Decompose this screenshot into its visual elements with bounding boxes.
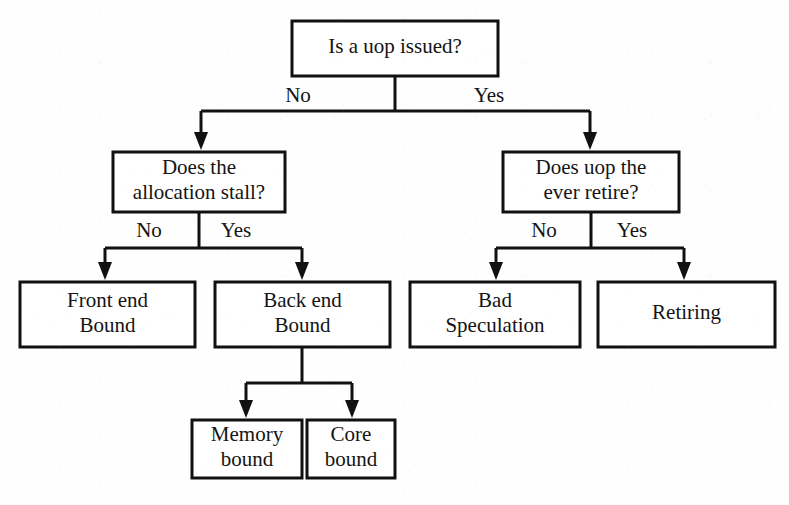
node-label-does-allocation-stall-line-0: Does the: [162, 155, 236, 179]
node-back-end-bound[interactable]: Back endBound: [215, 282, 390, 347]
node-label-back-end-bound-line-1: Bound: [274, 313, 331, 337]
connector-backend-split: [239, 347, 359, 418]
edge-label-root-yes: Yes: [474, 83, 505, 107]
node-retiring[interactable]: Retiring: [598, 282, 775, 347]
node-label-back-end-bound-line-0: Back end: [263, 288, 342, 312]
node-label-retiring-line-0: Retiring: [652, 300, 721, 324]
decision-tree-diagram: Is a uop issued?Does theallocation stall…: [0, 0, 789, 505]
connector-retire-split: [489, 212, 691, 280]
edge-label-alloc-no: No: [136, 218, 162, 242]
connector-retire-split-arrowhead-1: [677, 262, 691, 280]
connector-alloc-split-arrowhead-0: [98, 262, 112, 280]
connector-backend-split-arrowhead-0: [239, 400, 253, 418]
flowchart-canvas: Is a uop issued?Does theallocation stall…: [0, 0, 789, 505]
node-label-front-end-bound-line-0: Front end: [67, 288, 149, 312]
edge-label-retire-no: No: [531, 218, 557, 242]
connector-root-split-arrowhead-0: [194, 132, 208, 150]
node-label-memory-bound-line-1: bound: [221, 447, 274, 471]
node-core-bound[interactable]: Corebound: [307, 420, 395, 478]
node-bad-speculation[interactable]: BadSpeculation: [410, 282, 580, 347]
node-label-bad-speculation-line-0: Bad: [478, 288, 512, 312]
node-does-uop-ever-retire[interactable]: Does uop theever retire?: [503, 152, 679, 212]
node-label-front-end-bound-line-1: Bound: [79, 313, 136, 337]
node-label-memory-bound-line-0: Memory: [211, 422, 284, 446]
edge-label-alloc-yes: Yes: [221, 218, 252, 242]
node-label-core-bound-line-0: Core: [331, 422, 372, 446]
node-label-core-bound-line-1: bound: [325, 447, 378, 471]
connector-alloc-split-arrowhead-1: [295, 262, 309, 280]
node-label-bad-speculation-line-1: Speculation: [445, 313, 545, 337]
connector-root-split-arrowhead-1: [583, 132, 597, 150]
node-label-does-uop-ever-retire-line-0: Does uop the: [536, 155, 647, 179]
node-memory-bound[interactable]: Memorybound: [192, 420, 302, 478]
connector-backend-split-arrowhead-1: [345, 400, 359, 418]
edge-label-retire-yes: Yes: [617, 218, 648, 242]
node-is-uop-issued[interactable]: Is a uop issued?: [292, 21, 498, 76]
connector-layer: [98, 76, 691, 418]
node-label-does-uop-ever-retire-line-1: ever retire?: [543, 180, 638, 204]
connector-alloc-split: [98, 212, 309, 280]
node-does-allocation-stall[interactable]: Does theallocation stall?: [113, 152, 285, 212]
node-front-end-bound[interactable]: Front endBound: [20, 282, 195, 347]
node-label-does-allocation-stall-line-1: allocation stall?: [133, 180, 265, 204]
connector-root-split: [194, 76, 597, 150]
node-label-is-uop-issued-line-0: Is a uop issued?: [328, 34, 462, 58]
edge-label-root-no: No: [285, 83, 311, 107]
connector-retire-split-arrowhead-0: [489, 262, 503, 280]
